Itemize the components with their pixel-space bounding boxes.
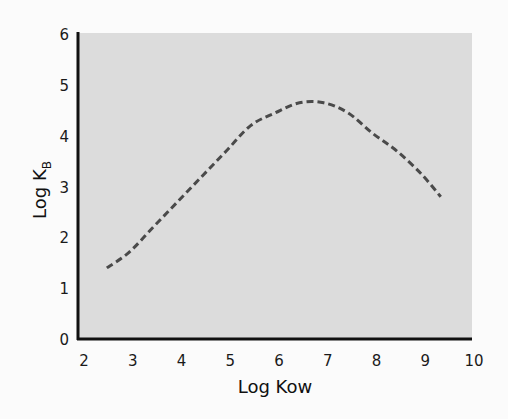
x-tick-labels: 2345678910 xyxy=(79,352,483,370)
y-axis-label: Log KB xyxy=(29,161,54,219)
y-tick-label: 0 xyxy=(59,331,69,349)
x-tick-label: 3 xyxy=(128,352,138,370)
x-tick-label: 9 xyxy=(420,352,430,370)
y-tick-label: 6 xyxy=(59,26,69,44)
x-tick-label: 7 xyxy=(323,352,333,370)
x-tick-label: 4 xyxy=(177,352,187,370)
x-tick-label: 5 xyxy=(225,352,235,370)
chart: 2345678910 0123456 Log Kow Log KB xyxy=(0,0,508,419)
y-tick-label: 3 xyxy=(59,179,69,197)
y-tick-label: 4 xyxy=(59,128,69,146)
plot-area xyxy=(78,33,472,339)
y-tick-label: 1 xyxy=(59,280,69,298)
x-tick-label: 8 xyxy=(372,352,382,370)
y-axis-label-main: Log K xyxy=(29,168,50,219)
y-tick-label: 5 xyxy=(59,77,69,95)
x-tick-label: 2 xyxy=(79,352,89,370)
y-axis-label-subscript: B xyxy=(40,161,54,169)
y-tick-labels: 0123456 xyxy=(59,26,69,349)
x-axis-label: Log Kow xyxy=(238,376,313,397)
x-tick-label: 10 xyxy=(464,352,483,370)
y-tick-label: 2 xyxy=(59,229,69,247)
x-tick-label: 6 xyxy=(274,352,284,370)
